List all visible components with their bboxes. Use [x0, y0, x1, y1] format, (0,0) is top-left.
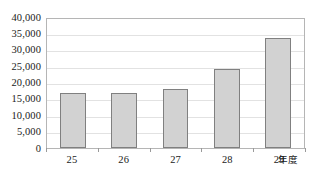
x-axis-title: 年度 — [278, 153, 298, 167]
y-axis-tick-label: 40,000 — [0, 13, 41, 23]
bar — [265, 38, 291, 148]
y-axis-tick-label: 20,000 — [0, 78, 41, 88]
bar-slot — [253, 19, 304, 148]
x-axis-tick — [150, 148, 151, 152]
bar-slot — [47, 19, 98, 148]
x-axis-tick — [253, 148, 254, 152]
y-axis-tick-label: 35,000 — [0, 29, 41, 39]
x-axis-ticks — [46, 148, 305, 152]
bar-slot — [201, 19, 252, 148]
bar — [163, 89, 189, 147]
y-axis-tick-label: 10,000 — [0, 111, 41, 121]
x-axis-tick — [201, 148, 202, 152]
y-axis-tick-label: 15,000 — [0, 94, 41, 104]
bar — [214, 69, 240, 147]
x-axis-tick — [46, 148, 47, 152]
y-axis: 05,00010,00015,00020,00025,00030,00035,0… — [0, 11, 41, 151]
y-axis-tick-label: 30,000 — [0, 45, 41, 55]
x-axis-tick-label: 25 — [46, 153, 98, 169]
bar-slot — [98, 19, 149, 148]
bars-layer — [47, 19, 304, 148]
x-axis-tick-label: 28 — [201, 153, 253, 169]
y-axis-tick-label: 5,000 — [0, 127, 41, 137]
bar — [60, 93, 86, 147]
x-axis-tick-label: 27 — [150, 153, 202, 169]
x-axis-tick — [98, 148, 99, 152]
y-axis-tick-label: 25,000 — [0, 62, 41, 72]
bar — [111, 93, 137, 147]
y-axis-tick-label: 0 — [0, 144, 41, 154]
plot-area — [46, 18, 305, 149]
x-axis: 2526272829 — [46, 153, 305, 169]
x-axis-tick — [305, 148, 306, 152]
x-axis-tick-label: 26 — [98, 153, 150, 169]
bar-chart: 05,00010,00015,00020,00025,00030,00035,0… — [0, 0, 317, 169]
bar-slot — [150, 19, 201, 148]
